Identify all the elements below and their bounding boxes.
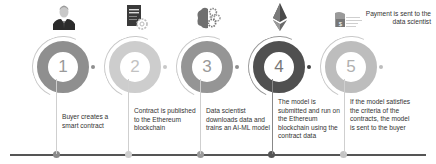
connector-stem-5 [344, 79, 345, 154]
dollar-payment-icon: $ [333, 11, 363, 29]
step-number-4: 4 [264, 52, 294, 82]
ai-ethereum-workflow-diagram: 1 Buyer creates a smart contract 2 Contr… [0, 0, 436, 164]
ethereum-icon [273, 3, 287, 31]
brain-gears-icon [194, 6, 222, 30]
number-ring-2: 2 [109, 41, 161, 93]
connector-stem-1 [56, 79, 57, 154]
step-number-2: 2 [120, 52, 150, 82]
connector-stem-2 [128, 79, 129, 154]
step-4: 4 The model is submitted and run on the … [239, 0, 319, 164]
number-ring-5: 5 [325, 41, 377, 93]
step-description-5: If the model satisfies the criteria of t… [350, 98, 414, 132]
payment-note: Payment is sent to the data scientist [361, 10, 431, 27]
step-5: $ Payment is sent to the data scientist … [311, 0, 391, 164]
step-number-5: 5 [336, 52, 366, 82]
number-ring-3: 3 [181, 41, 233, 93]
businessman-icon [52, 4, 76, 30]
arc-end-dot-5 [379, 65, 383, 69]
number-ring-4: 4 [253, 41, 305, 93]
number-ring-1: 1 [37, 41, 89, 93]
step-number-3: 3 [192, 52, 222, 82]
contract-document-gear-icon [124, 4, 148, 30]
step-number-1: 1 [48, 52, 78, 82]
step-1: 1 Buyer creates a smart contract [23, 0, 103, 164]
connector-stem-4 [272, 79, 273, 154]
step-2: 2 Contract is published to the Ethereum … [95, 0, 175, 164]
connector-stem-3 [200, 79, 201, 154]
step-3: 3 Data scientist downloads data and trai… [167, 0, 247, 164]
